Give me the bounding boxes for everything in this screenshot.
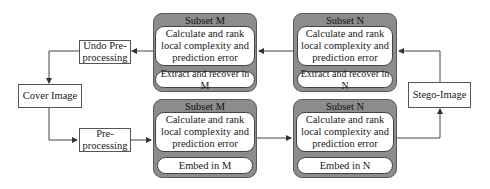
top-subset-m: Subset M Calculate and rank local comple… — [153, 13, 257, 92]
cover-image-box: Cover Image — [18, 84, 82, 108]
bottom-subset-n-embed-step: Embed in N — [297, 157, 393, 174]
top-subset-m-extract-step: Extract and recover in M — [155, 71, 255, 88]
bottom-subset-m: Subset M Calculate and rank local comple… — [153, 99, 257, 178]
top-subset-n: Subset N Calculate and rank local comple… — [293, 13, 397, 92]
undo-preprocessing-box: Undo Pre-processing — [79, 40, 131, 64]
preprocessing-box: Pre-processing — [79, 128, 131, 152]
bottom-subset-n-title: Subset N — [294, 101, 396, 112]
bottom-subset-m-calculate-step: Calculate and rank local complexity and … — [155, 112, 255, 152]
top-subset-n-calculate-step: Calculate and rank local complexity and … — [297, 26, 393, 66]
top-subset-n-title: Subset N — [294, 15, 396, 26]
stego-image-box: Stego-Image — [408, 82, 471, 108]
bottom-subset-n-calculate-step: Calculate and rank local complexity and … — [296, 112, 394, 152]
top-subset-m-title: Subset M — [154, 15, 256, 26]
bottom-subset-n: Subset N Calculate and rank local comple… — [293, 99, 397, 178]
top-subset-n-extract-step: Extract and recover in N — [297, 71, 393, 88]
bottom-subset-m-embed-step: Embed in M — [157, 157, 253, 174]
top-subset-m-calculate-step: Calculate and rank local complexity and … — [155, 26, 255, 66]
bottom-subset-m-title: Subset M — [154, 101, 256, 112]
